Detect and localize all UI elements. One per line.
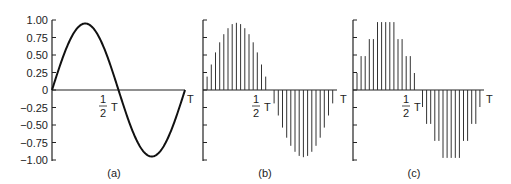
y-tick-label: −1.00	[20, 154, 48, 166]
T-label: T	[187, 93, 194, 105]
panel-c-quantized-samples: 1 2 T T (c)	[353, 20, 493, 179]
y-axis-ticks: 1.000.750.500.250−0.25−0.50−0.75−1.00	[20, 14, 56, 166]
half-T-label: T	[264, 101, 271, 113]
y-tick-label: −0.75	[20, 137, 48, 149]
figure: 1.000.750.500.250−0.25−0.50−0.75−1.00 1 …	[0, 0, 511, 184]
half-denominator: 2	[100, 107, 106, 119]
half-numerator: 1	[403, 93, 409, 105]
half-numerator: 1	[253, 93, 259, 105]
caption-c: (c)	[408, 167, 421, 179]
y-tick-label: −0.50	[20, 119, 48, 131]
y-tick-label: 0	[42, 84, 48, 96]
y-tick-label: −0.25	[20, 102, 48, 114]
half-T-label: T	[111, 101, 118, 113]
y-tick-label: 0.75	[27, 32, 48, 44]
half-T-label: T	[414, 101, 421, 113]
panel-a-continuous-sine: 1.000.750.500.250−0.25−0.50−0.75−1.00 1 …	[20, 14, 194, 179]
y-tick-label: 1.00	[27, 14, 48, 26]
panel-b-sampled-sine: 1 2 T T (b)	[203, 20, 347, 179]
y-tick-label: 0.50	[27, 49, 48, 61]
half-denominator: 2	[403, 107, 409, 119]
caption-a: (a)	[107, 167, 120, 179]
T-label: T	[486, 93, 493, 105]
caption-b: (b)	[258, 167, 271, 179]
half-denominator: 2	[253, 107, 259, 119]
T-label: T	[340, 93, 347, 105]
y-tick-label: 0.25	[27, 67, 48, 79]
half-numerator: 1	[100, 93, 106, 105]
